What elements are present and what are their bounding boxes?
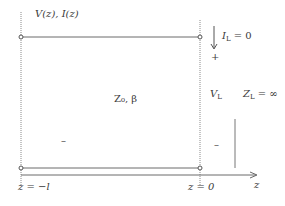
load-current-value: = 0 <box>231 30 252 41</box>
load-voltage-subscript: L <box>217 93 222 101</box>
load-voltage-label: VL <box>210 89 222 101</box>
minus-sign-left: – <box>61 136 66 146</box>
terminal-bottom-left <box>19 166 23 170</box>
transmission-line-diagram: V(z), I(z) IL = 0 + VL ZL = ∞ Z₀, β – – … <box>0 0 285 206</box>
load-current-label: IL = 0 <box>222 31 252 43</box>
load-impedance-symbol: Z <box>243 88 250 99</box>
terminal-top-left <box>19 35 23 39</box>
z-end-label: z = 0 <box>188 182 214 192</box>
load-impedance-value: = ∞ <box>255 88 278 99</box>
minus-sign-right: – <box>214 140 219 150</box>
plus-sign: + <box>211 52 219 62</box>
line-parameters-label: Z₀, β <box>114 94 137 104</box>
z-start-label: z = −l <box>18 182 50 192</box>
voltage-current-label: V(z), I(z) <box>35 9 79 19</box>
terminal-bottom-right <box>198 166 202 170</box>
terminal-top-right <box>198 35 202 39</box>
z-axis-label: z <box>254 180 259 190</box>
load-impedance-label: ZL = ∞ <box>243 89 278 101</box>
